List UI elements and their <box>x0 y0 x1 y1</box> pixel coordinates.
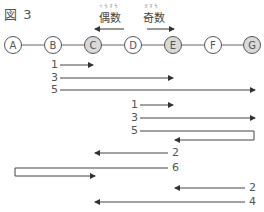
node-c: C <box>85 37 102 54</box>
move-label: 4 <box>249 196 256 207</box>
node-f: F <box>205 37 222 54</box>
node-g: G <box>244 37 261 54</box>
move-label: 5 <box>51 84 58 95</box>
move-label: 1 <box>131 99 138 110</box>
move-label: 1 <box>51 59 58 70</box>
move-label: 5 <box>131 125 138 136</box>
move-label: 2 <box>172 147 179 158</box>
node-e: E <box>165 37 182 54</box>
figure: 図 3 ぐうすう 偶数 きすう 奇数 ABCDEFG 1351352624 <box>0 0 264 212</box>
svg-text:E: E <box>170 40 176 51</box>
move-label: 6 <box>172 162 179 173</box>
node-d: D <box>125 37 142 54</box>
svg-text:G: G <box>248 40 256 51</box>
move-label: 3 <box>51 72 58 83</box>
node-b: B <box>45 37 62 54</box>
move-label: 2 <box>249 182 256 193</box>
move-label: 3 <box>131 112 138 123</box>
svg-text:B: B <box>50 40 57 51</box>
node-a: A <box>5 37 22 54</box>
svg-text:F: F <box>210 40 216 51</box>
svg-text:D: D <box>129 40 137 51</box>
svg-text:A: A <box>10 40 17 51</box>
svg-text:C: C <box>90 40 97 51</box>
